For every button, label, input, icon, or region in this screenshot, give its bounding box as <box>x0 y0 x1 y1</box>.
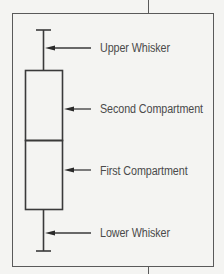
label-second-compartment: Second Compartment <box>100 102 203 116</box>
label-upper-whisker: Upper Whisker <box>100 41 170 55</box>
label-lower-whisker: Lower Whisker <box>100 226 170 240</box>
box-second-compartment <box>26 71 63 141</box>
box-first-compartment <box>26 141 63 210</box>
arrow-upper-whisker <box>45 46 91 51</box>
arrow-second-compartment <box>64 107 91 112</box>
label-first-compartment: First Compartment <box>100 164 188 178</box>
arrow-first-compartment <box>64 168 91 173</box>
arrow-lower-whisker <box>45 231 91 236</box>
